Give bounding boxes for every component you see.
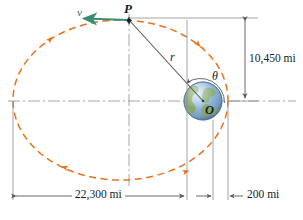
point-p-label: P [124, 2, 132, 15]
orbit-direction-arrow-lower-right [182, 168, 190, 175]
dimension-label-200: 200 mi [247, 189, 279, 201]
dimension-label-22300: 22,300 mi [72, 189, 125, 201]
center-o-label: O [205, 104, 214, 117]
radius-label: r [170, 51, 175, 63]
theta-label: θ [212, 70, 218, 82]
orbit-direction-arrow-upper-left [46, 35, 55, 44]
velocity-vector [84, 19, 128, 21]
radius-line [130, 21, 203, 101]
velocity-label: v [77, 7, 82, 18]
dimension-label-10450: 10,450 mi [249, 53, 296, 65]
figure-canvas: P v r θ O 10,450 mi 22,300 mi 200 mi [0, 0, 303, 220]
extension-lines [13, 18, 258, 200]
diagram-svg [0, 0, 303, 220]
point-o-marker [202, 100, 205, 103]
